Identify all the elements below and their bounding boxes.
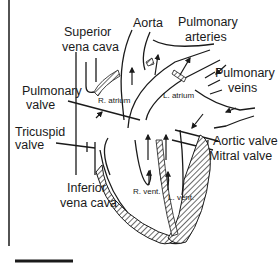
label-aorta: Aorta bbox=[133, 16, 163, 30]
label-right-atrium: R. atrium bbox=[98, 96, 130, 105]
label-superior-vena-cava-line2: vena cava bbox=[62, 40, 119, 54]
label-pulmonary-valve-line2: valve bbox=[26, 98, 55, 112]
label-superior-vena-cava-line1: Superior bbox=[64, 25, 111, 39]
label-inferior-vena-cava-line2: vena cava bbox=[60, 196, 117, 210]
label-pulmonary-arteries-line1: Pulmonary bbox=[178, 15, 238, 29]
label-pulmonary-veins-line2: veins bbox=[228, 81, 257, 95]
label-inferior-vena-cava-line1: Inferior bbox=[67, 181, 106, 195]
label-tricuspid-valve-line2: valve bbox=[15, 138, 44, 152]
label-pulmonary-veins-line1: Pulmonary bbox=[215, 66, 275, 80]
label-aortic-valve: Aortic valve bbox=[213, 134, 278, 148]
label-mitral-valve: Mitral valve bbox=[209, 149, 272, 163]
label-left-atrium: L. atrium bbox=[163, 91, 194, 100]
label-right-ventricle: R. vent. bbox=[133, 187, 161, 196]
label-tricuspid-valve-line1: Tricuspid bbox=[15, 125, 65, 139]
label-pulmonary-arteries-line2: arteries bbox=[185, 30, 227, 44]
label-pulmonary-valve-line1: Pulmonary bbox=[22, 84, 82, 98]
label-left-ventricle: L. vent. bbox=[168, 193, 194, 202]
